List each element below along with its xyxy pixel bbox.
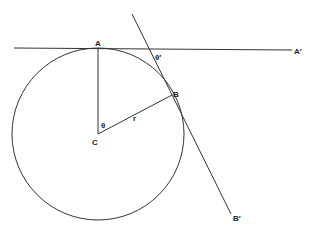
label-angle-theta: θ (101, 121, 105, 130)
label-radius-r: r (133, 114, 136, 123)
label-point-A-prime: A′ (294, 47, 302, 56)
diagram-canvas: A A′ B B′ C θ θ′ r (0, 0, 314, 233)
label-point-B-prime: B′ (233, 214, 241, 223)
label-point-B: B (173, 90, 179, 99)
label-point-A: A (95, 39, 101, 48)
tangent-line-BB-prime (132, 14, 231, 214)
tangent-line-AA-prime (14, 48, 292, 50)
label-angle-theta-prime: θ′ (155, 53, 161, 62)
label-point-C: C (92, 138, 98, 147)
